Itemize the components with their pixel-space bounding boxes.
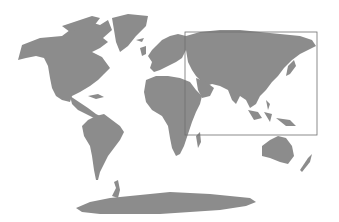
north-america bbox=[18, 20, 112, 102]
central-america bbox=[70, 96, 100, 118]
south-america bbox=[82, 114, 124, 180]
australia bbox=[262, 136, 294, 164]
greenland bbox=[112, 14, 148, 52]
uk-iceland bbox=[136, 38, 146, 56]
new-zealand bbox=[300, 154, 312, 172]
africa bbox=[144, 76, 202, 156]
antarctica bbox=[76, 192, 256, 214]
caribbean-islands bbox=[88, 94, 104, 99]
madagascar bbox=[196, 132, 201, 148]
europe bbox=[148, 34, 186, 72]
world-map bbox=[0, 0, 339, 222]
antarctic-peninsula bbox=[112, 180, 120, 198]
